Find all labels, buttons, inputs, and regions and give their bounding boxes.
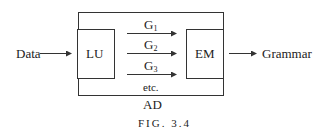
- arrow-subscript: 3: [153, 65, 157, 74]
- arrow-letter: G: [144, 58, 153, 73]
- outer-box-label: AD: [143, 98, 162, 111]
- arrow-label-g2: G2: [144, 38, 157, 55]
- arrow-label-g3: G3: [144, 59, 157, 76]
- output-label: Grammar: [262, 47, 312, 60]
- arrow-letter: G: [144, 37, 153, 52]
- diagram-lines: [0, 0, 317, 133]
- arrow-label-g1: G1: [144, 18, 157, 35]
- arrow-subscript: 2: [153, 44, 157, 53]
- input-label: Data: [16, 47, 41, 60]
- arrow-subscript: 1: [153, 24, 157, 33]
- etc-label: etc.: [143, 81, 159, 94]
- em-box-label: EM: [195, 47, 215, 60]
- lu-box-label: LU: [86, 47, 103, 60]
- figure-caption: FIG. 3.4: [138, 117, 191, 130]
- arrow-letter: G: [144, 17, 153, 32]
